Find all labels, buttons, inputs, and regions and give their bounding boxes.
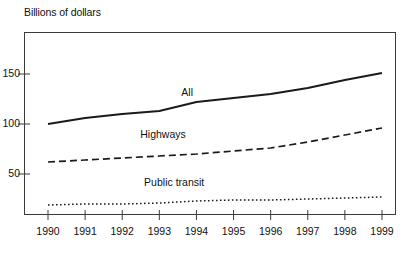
chart-canvas [0, 0, 408, 253]
series-label-highways: Highways [140, 128, 186, 140]
x-tick-label: 1992 [104, 225, 140, 237]
series-label-public-transit: Public transit [144, 176, 204, 188]
series-line-all [48, 73, 382, 124]
x-tick-label: 1990 [30, 225, 66, 237]
series-lines [48, 73, 382, 205]
y-tick-label: 50 [0, 167, 20, 179]
series-line-highways [48, 128, 382, 162]
x-tick-label: 1991 [67, 225, 103, 237]
x-tick-marks [48, 210, 382, 220]
series-label-all: All [181, 86, 193, 98]
x-tick-label: 1994 [178, 225, 214, 237]
chart-figure: Billions of dollars 50100150 19901991199… [0, 0, 408, 253]
x-tick-label: 1995 [216, 225, 252, 237]
x-tick-label: 1997 [290, 225, 326, 237]
x-tick-label: 1999 [364, 225, 400, 237]
x-tick-label: 1996 [253, 225, 289, 237]
series-line-public-transit [48, 197, 382, 205]
x-tick-label: 1993 [141, 225, 177, 237]
y-tick-label: 150 [0, 67, 20, 79]
x-tick-label: 1998 [327, 225, 363, 237]
y-tick-label: 100 [0, 117, 20, 129]
